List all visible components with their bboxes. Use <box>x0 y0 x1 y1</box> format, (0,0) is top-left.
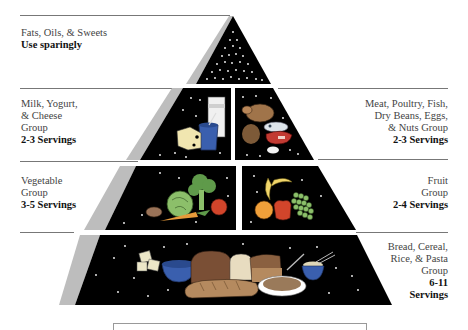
tier-fats <box>196 16 271 84</box>
potato-icon <box>146 207 162 217</box>
baguette-icon <box>185 279 258 298</box>
pasta-plate-icon <box>258 276 306 296</box>
apple-icon <box>274 201 291 221</box>
egg-icon <box>267 147 279 154</box>
tomato-icon <box>211 199 227 215</box>
orange-icon <box>255 201 273 219</box>
cabbage-icon <box>167 191 193 217</box>
fish-icon <box>264 122 288 132</box>
caption-box <box>113 323 367 330</box>
beans-icon <box>242 124 260 144</box>
tier-fruit <box>242 166 356 230</box>
